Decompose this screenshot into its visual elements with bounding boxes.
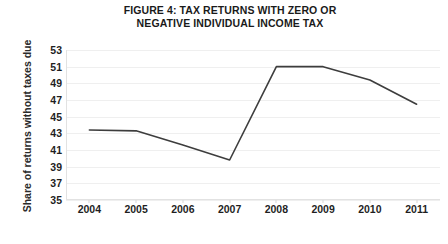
x-axis-tick-label: 2011 [405, 203, 428, 215]
y-axis-tick-label: 51 [40, 61, 62, 73]
x-axis-tick-label: 2009 [311, 203, 334, 215]
x-axis-tick-label: 2006 [171, 203, 194, 215]
x-axis-tick-label: 2007 [218, 203, 241, 215]
x-axis-tick-labels: 20042005200620072008200920102011 [66, 203, 440, 223]
figure-tax-returns-zero-negative-income-tax: FIGURE 4: TAX RETURNS WITH ZERO OR NEGAT… [0, 0, 448, 244]
chart-title-line-1: FIGURE 4: TAX RETURNS WITH ZERO OR [124, 4, 337, 16]
y-axis-tick-label: 41 [40, 144, 62, 156]
x-axis-tick-label: 2005 [124, 203, 147, 215]
chart-title: FIGURE 4: TAX RETURNS WITH ZERO OR NEGAT… [60, 4, 400, 30]
y-axis-tick-label: 49 [40, 77, 62, 89]
y-axis-tick-labels: 53514947454341393735 [40, 50, 62, 200]
x-axis-tick-label: 2010 [358, 203, 381, 215]
y-axis-tick-label: 43 [40, 127, 62, 139]
y-axis-label: Share of returns without taxes due [21, 26, 33, 226]
y-axis-tick-label: 37 [40, 177, 62, 189]
y-axis-tick-label: 53 [40, 44, 62, 56]
y-axis-tick-label: 45 [40, 111, 62, 123]
y-axis-tick-label: 47 [40, 94, 62, 106]
y-axis-tick-label: 35 [40, 194, 62, 206]
data-series-line [66, 50, 440, 200]
x-axis-tick-label: 2004 [78, 203, 101, 215]
plot-wrapper: 53514947454341393735 [40, 50, 440, 200]
gridline [66, 200, 440, 201]
y-axis-tick-label: 39 [40, 161, 62, 173]
plot-area [66, 50, 440, 200]
chart-title-line-2: NEGATIVE INDIVIDUAL INCOME TAX [137, 17, 324, 29]
x-axis-tick-label: 2008 [265, 203, 288, 215]
